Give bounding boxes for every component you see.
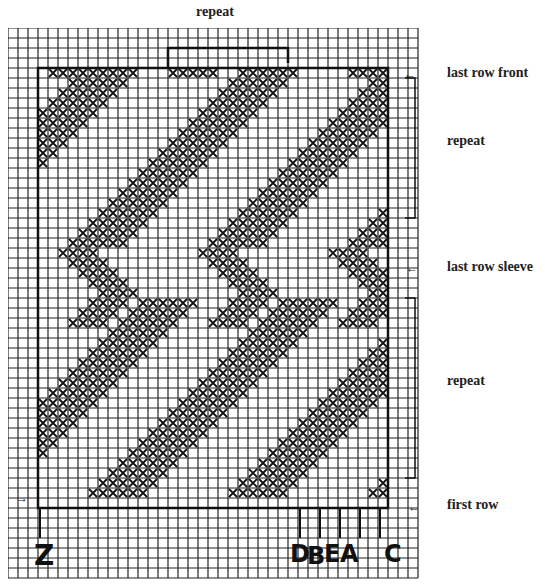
column-marker-z: Z <box>34 542 54 570</box>
column-marker-a: A <box>340 542 359 566</box>
last-row-sleeve-arrow-icon: ← <box>406 262 418 274</box>
chart-grid <box>8 28 420 584</box>
repeat-upper-label: repeat <box>447 133 485 149</box>
last-row-front-label: last row front <box>447 65 528 81</box>
first-row-label: first row <box>447 497 498 513</box>
top-repeat-label: repeat <box>196 4 234 20</box>
left-first-row-arrow-icon: → <box>16 492 28 504</box>
column-marker-e: E <box>324 542 340 566</box>
repeat-lower-label: repeat <box>447 373 485 389</box>
column-marker-b: B <box>307 544 325 568</box>
column-marker-c: C <box>384 542 402 566</box>
last-row-front-arrow-icon: ← <box>404 68 416 80</box>
first-row-arrow-icon: ← <box>408 501 420 513</box>
last-row-sleeve-label: last row sleeve <box>447 259 533 275</box>
